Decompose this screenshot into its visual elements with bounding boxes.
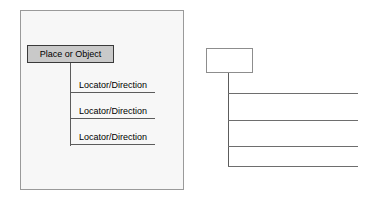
example-entry-rule-1	[70, 92, 155, 93]
template-entry-rule-1[interactable]	[228, 93, 358, 94]
diagram-canvas: Place or Object Locator/Direction Locato…	[0, 0, 373, 204]
template-entry-rule-4[interactable]	[228, 166, 358, 167]
example-entry-row-3[interactable]: Locator/Direction	[70, 132, 155, 145]
example-entry-label-2: Locator/Direction	[79, 107, 147, 116]
template-entry-rule-2[interactable]	[228, 120, 358, 121]
example-entry-rule-2	[70, 118, 155, 119]
example-entry-label-3: Locator/Direction	[79, 133, 147, 142]
root-node-place-or-object[interactable]: Place or Object	[27, 45, 114, 63]
template-root-node[interactable]	[206, 48, 253, 73]
example-panel	[20, 10, 184, 190]
template-entry-rule-3[interactable]	[228, 146, 358, 147]
example-entry-rule-3	[70, 144, 155, 145]
example-entry-row-1[interactable]: Locator/Direction	[70, 80, 155, 93]
root-node-label: Place or Object	[40, 50, 102, 59]
example-entry-label-1: Locator/Direction	[79, 81, 147, 90]
example-entry-row-2[interactable]: Locator/Direction	[70, 106, 155, 119]
